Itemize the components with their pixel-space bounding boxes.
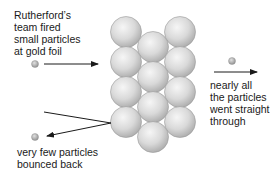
gold-atom (138, 92, 169, 123)
incoming-particle-icon (32, 61, 39, 68)
through-label: nearly all the particles went straight t… (210, 79, 270, 127)
gold-atom (165, 17, 196, 48)
through-label-line: went straight (210, 103, 270, 115)
gold-foil-atoms (111, 17, 196, 153)
incoming-label-line: at gold foil (14, 45, 81, 57)
gold-atom (111, 107, 142, 138)
through-label-line: through (210, 115, 270, 127)
gold-atom (111, 77, 142, 108)
bounced-particle-icon (32, 134, 39, 141)
incoming-label-line: team fired (14, 21, 81, 33)
gold-atom (138, 62, 169, 93)
gold-atom (165, 77, 196, 108)
gold-atom (111, 47, 142, 78)
through-particle-icon (229, 58, 236, 65)
incoming-label: Rutherford’s team fired small particles … (14, 9, 81, 57)
bounced-label-line: very few particles (17, 146, 98, 158)
bounce-incoming-line (44, 112, 111, 123)
incoming-label-line: Rutherford’s (14, 9, 81, 21)
gold-atom (165, 47, 196, 78)
through-label-line: the particles (210, 91, 270, 103)
bounced-label: very few particles bounced back (17, 146, 98, 170)
incoming-label-line: small particles (14, 33, 81, 45)
bounce-back-arrow (47, 123, 111, 136)
bounced-label-line: bounced back (17, 158, 98, 170)
through-label-line: nearly all (210, 79, 270, 91)
gold-atom (165, 107, 196, 138)
gold-atom (111, 17, 142, 48)
gold-atom (138, 122, 169, 153)
gold-atom (138, 32, 169, 63)
